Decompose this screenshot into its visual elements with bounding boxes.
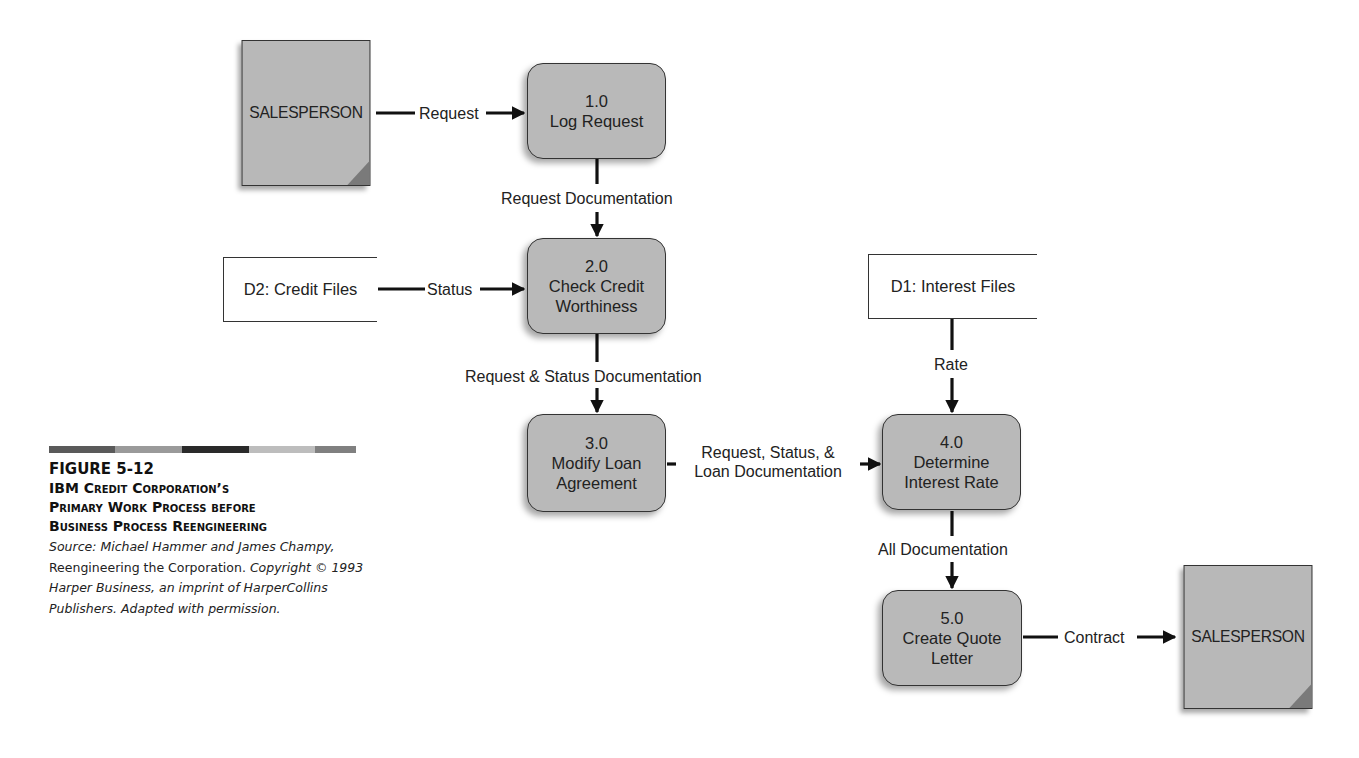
- process-number: 3.0: [585, 433, 608, 453]
- source-book-title: Reengineering the Corporation.: [49, 560, 246, 575]
- process-number: 4.0: [940, 432, 963, 452]
- figure-title-line: Business Process Reengineering: [49, 517, 369, 536]
- process-1-log-request: 1.0 Log Request: [527, 63, 666, 159]
- process-name-line: Interest Rate: [904, 472, 998, 492]
- figure-caption: FIGURE 5-12 IBM Credit Corporation’s Pri…: [49, 459, 369, 619]
- flow-label-rate: Rate: [934, 355, 968, 374]
- flow-label-request-status-loan-documentation: Request, Status, & Loan Documentation: [679, 443, 857, 481]
- flow-label-request-documentation: Request Documentation: [501, 189, 673, 208]
- process-number: 2.0: [585, 256, 608, 276]
- entity-label: SALESPERSON: [249, 103, 362, 123]
- process-number: 5.0: [941, 608, 964, 628]
- bar-segment: [115, 446, 182, 453]
- store-label: D2: Credit Files: [244, 280, 358, 299]
- process-name-line: Agreement: [556, 473, 637, 493]
- data-store-d2-credit-files: D2: Credit Files: [223, 257, 377, 322]
- store-label: D1: Interest Files: [891, 277, 1016, 296]
- figure-title-line: IBM Credit Corporation’s: [49, 479, 369, 498]
- process-4-determine-interest-rate: 4.0 Determine Interest Rate: [882, 414, 1021, 510]
- entity-label: SALESPERSON: [1191, 627, 1304, 647]
- process-name-line: Modify Loan: [552, 453, 642, 473]
- flow-label-request-status-documentation: Request & Status Documentation: [465, 367, 702, 386]
- process-5-create-quote-letter: 5.0 Create Quote Letter: [882, 590, 1022, 686]
- flow-label-line: Loan Documentation: [679, 462, 857, 481]
- bar-segment: [249, 446, 315, 453]
- entity-corner-marker: [347, 161, 369, 185]
- process-name-line: Create Quote: [902, 628, 1001, 648]
- source-authors: Source: Michael Hammer and James Champy,: [49, 539, 334, 554]
- data-store-d1-interest-files: D1: Interest Files: [868, 254, 1037, 319]
- bar-segment: [49, 446, 115, 453]
- flow-label-all-documentation: All Documentation: [878, 540, 1008, 559]
- bar-segment: [182, 446, 249, 453]
- figure-number: FIGURE 5-12: [49, 459, 369, 479]
- process-3-modify-loan-agreement: 3.0 Modify Loan Agreement: [527, 414, 666, 512]
- entity-corner-marker: [1289, 684, 1311, 708]
- flow-label-request: Request: [419, 104, 479, 123]
- flow-label-contract: Contract: [1064, 628, 1124, 647]
- process-2-check-credit-worthiness: 2.0 Check Credit Worthiness: [527, 238, 666, 334]
- process-number: 1.0: [585, 91, 608, 111]
- flow-label-line: Request, Status, &: [679, 443, 857, 462]
- caption-decorative-bar: [49, 446, 356, 453]
- external-entity-salesperson-sink: SALESPERSON: [1184, 565, 1313, 709]
- figure-title-line: Primary Work Process before: [49, 498, 369, 517]
- process-name-line: Determine: [913, 452, 989, 472]
- figure-title: IBM Credit Corporation’s Primary Work Pr…: [49, 479, 369, 536]
- process-name-line: Log Request: [550, 111, 644, 131]
- process-name-line: Letter: [931, 648, 973, 668]
- external-entity-salesperson-source: SALESPERSON: [242, 40, 371, 186]
- process-name-line: Check Credit: [549, 276, 644, 296]
- flow-label-status: Status: [427, 280, 472, 299]
- figure-source: Source: Michael Hammer and James Champy,…: [49, 537, 369, 619]
- bar-segment: [315, 446, 356, 453]
- process-name-line: Worthiness: [555, 296, 637, 316]
